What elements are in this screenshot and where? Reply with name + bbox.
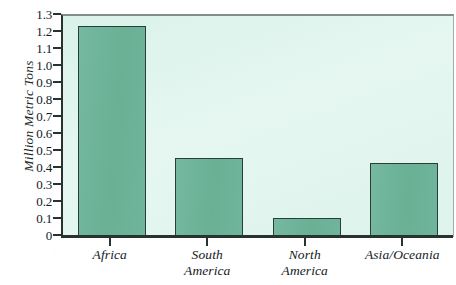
x-category-label-line1: South	[192, 247, 223, 262]
x-category-label-line1: Africa	[93, 247, 127, 262]
x-category-label-line2: America	[245, 263, 365, 279]
x-category-label: Asia/Oceania	[342, 247, 456, 263]
x-tick-mark	[401, 238, 403, 246]
x-category-label-line1: Asia/Oceania	[365, 247, 440, 262]
x-tick-mark	[109, 238, 111, 246]
x-category-label-line1: North	[289, 247, 321, 262]
x-axis-tick-marks	[0, 0, 456, 285]
x-tick-mark	[304, 238, 306, 246]
bar-chart-figure: Million Metric Tons 1.31.21.11.00.90.80.…	[0, 0, 456, 285]
x-axis-category-labels: AfricaSouthAmericaNorthAmericaAsia/Ocean…	[0, 247, 456, 285]
x-tick-mark	[206, 238, 208, 246]
